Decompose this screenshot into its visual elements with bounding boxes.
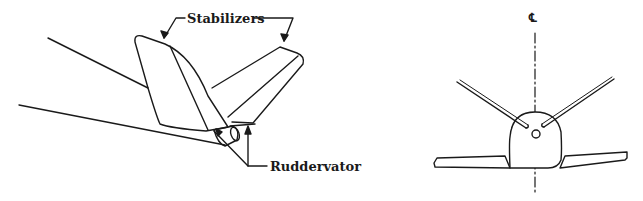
fuselage-lower-edge <box>19 105 225 145</box>
stabilizers-label: Stabilizers <box>187 12 265 25</box>
right-ruddervator-hinge <box>228 56 298 117</box>
fuselage-upper-edge <box>48 38 148 88</box>
ruddervator-leader-left <box>214 131 267 166</box>
ruddervator-label: Ruddervator <box>270 160 361 173</box>
stabilizers-arrow-left <box>161 31 168 38</box>
centerline-symbol: ℄ <box>529 12 537 24</box>
ruddervator-arrow-right <box>245 126 251 134</box>
tail-cone-end <box>229 126 241 142</box>
right-wing <box>560 152 627 168</box>
perspective-tail-view <box>19 18 303 166</box>
right-stabilizer <box>212 47 303 123</box>
right-vtail-outer <box>544 79 614 127</box>
left-vtail-inner <box>460 80 528 125</box>
right-vtail-inner <box>542 77 612 124</box>
left-stabilizer <box>135 36 228 131</box>
left-wing <box>434 156 510 168</box>
diagram-canvas: Stabilizers Ruddervator ℄ <box>0 0 643 201</box>
stabilizers-arrow-right <box>281 34 288 41</box>
left-ruddervator-hinge <box>170 46 208 130</box>
rear-view <box>434 33 627 193</box>
left-vtail-outer <box>457 82 526 128</box>
